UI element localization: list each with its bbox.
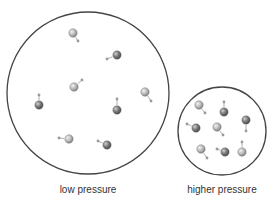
low-pressure-label: low pressure <box>38 184 138 195</box>
particle-sphere-icon <box>197 145 205 153</box>
particle-sphere-icon <box>69 29 77 37</box>
gas-particle <box>242 116 250 133</box>
gas-particle <box>113 98 121 115</box>
particle-sphere-icon <box>65 135 73 143</box>
arrow-head-icon <box>81 79 84 82</box>
particle-sphere-icon <box>192 124 200 132</box>
gas-particle <box>186 123 201 133</box>
arrow-head-icon <box>97 140 100 143</box>
arrow-head-icon <box>106 58 109 61</box>
gas-particle <box>220 101 228 117</box>
gas-particle <box>58 135 74 143</box>
arrow-head-icon <box>77 40 80 43</box>
arrow-head-icon <box>186 123 189 126</box>
high-pressure-container <box>178 87 266 175</box>
arrow-head-icon <box>222 134 225 137</box>
arrow-head-icon <box>204 112 207 115</box>
particle-sphere-icon <box>213 123 221 131</box>
gas-particle <box>197 145 209 160</box>
gas-particle <box>69 29 80 43</box>
gas-particle <box>70 79 84 92</box>
gas-particle <box>195 101 207 115</box>
particle-sphere-icon <box>35 101 43 109</box>
arrow-head-icon <box>245 130 248 133</box>
arrow-head-icon <box>223 101 226 104</box>
particle-sphere-icon <box>195 101 203 109</box>
arrow-head-icon <box>241 141 244 144</box>
gas-particle <box>97 140 112 150</box>
particle-sphere-icon <box>113 106 121 114</box>
arrow-head-icon <box>116 98 119 101</box>
particle-sphere-icon <box>113 51 121 59</box>
gas-particle <box>213 123 225 137</box>
arrow-head-icon <box>206 157 209 160</box>
gas-particle <box>35 94 43 110</box>
arrow-head-icon <box>150 100 153 103</box>
particle-sphere-icon <box>70 83 78 91</box>
particle-sphere-icon <box>103 141 111 149</box>
pressure-diagram <box>0 0 271 205</box>
gas-particle <box>141 88 153 103</box>
particle-sphere-icon <box>141 88 149 96</box>
gas-particle <box>216 148 230 157</box>
arrow-head-icon <box>38 94 41 97</box>
gas-particle <box>106 51 122 61</box>
gas-particle <box>238 141 246 157</box>
particle-sphere-icon <box>242 116 250 124</box>
arrow-head-icon <box>58 137 61 140</box>
particle-sphere-icon <box>221 148 229 156</box>
arrow-head-icon <box>216 148 219 151</box>
container-circle <box>178 87 266 175</box>
low-pressure-container <box>7 12 169 174</box>
particle-sphere-icon <box>220 108 228 116</box>
particle-sphere-icon <box>238 148 246 156</box>
higher-pressure-label: higher pressure <box>172 184 271 195</box>
